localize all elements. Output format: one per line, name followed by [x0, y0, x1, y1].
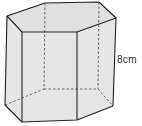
height-label: 8cm — [117, 54, 137, 65]
